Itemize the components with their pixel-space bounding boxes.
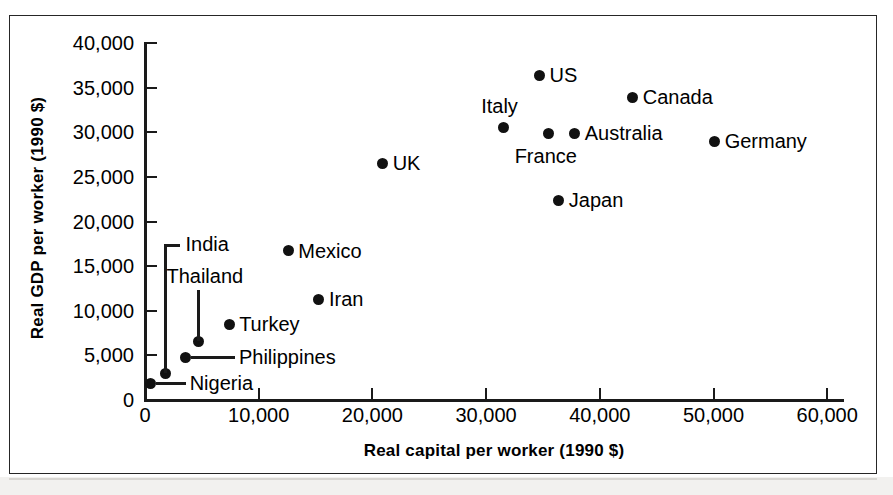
y-axis-tick bbox=[146, 310, 157, 312]
data-point-australia bbox=[569, 128, 580, 139]
data-label-iran: Iran bbox=[329, 289, 363, 309]
data-point-us bbox=[534, 70, 545, 81]
data-point-turkey bbox=[224, 319, 235, 330]
data-label-nigeria: Nigeria bbox=[190, 373, 253, 393]
data-label-turkey: Turkey bbox=[239, 314, 299, 334]
data-point-philippines bbox=[180, 352, 191, 363]
x-axis-tick-label: 60,000 bbox=[767, 405, 887, 425]
figure-root: 05,00010,00015,00020,00025,00030,00035,0… bbox=[0, 0, 893, 495]
data-point-iran bbox=[313, 294, 324, 305]
data-label-philippines: Philippines bbox=[239, 347, 336, 367]
scatter-plot-area: 05,00010,00015,00020,00025,00030,00035,0… bbox=[0, 0, 893, 495]
data-label-germany: Germany bbox=[725, 131, 807, 151]
y-axis-tick bbox=[146, 221, 157, 223]
data-point-mexico bbox=[283, 245, 294, 256]
x-axis-line bbox=[144, 399, 844, 402]
x-axis-title: Real capital per worker (1990 $) bbox=[144, 441, 844, 461]
x-axis-tick-label: 20,000 bbox=[312, 405, 432, 425]
data-label-us: US bbox=[550, 65, 578, 85]
data-point-italy bbox=[498, 122, 509, 133]
y-axis-tick bbox=[146, 42, 157, 44]
x-axis-tick bbox=[713, 388, 715, 399]
data-point-uk bbox=[377, 158, 388, 169]
data-label-italy: Italy bbox=[481, 96, 518, 116]
x-axis-tick-label: 0 bbox=[85, 405, 205, 425]
leader-line-nigeria bbox=[156, 382, 186, 385]
x-axis-tick-label: 30,000 bbox=[426, 405, 546, 425]
data-label-mexico: Mexico bbox=[298, 241, 361, 261]
x-axis-tick bbox=[485, 388, 487, 399]
y-axis-tick bbox=[146, 176, 157, 178]
data-point-japan bbox=[553, 195, 564, 206]
leader-line-philippines bbox=[191, 356, 235, 359]
data-label-thailand: Thailand bbox=[166, 266, 243, 286]
y-axis-tick bbox=[146, 354, 157, 356]
y-axis-title: Real GDP per worker (1990 $) bbox=[28, 38, 48, 398]
y-axis-tick bbox=[146, 131, 157, 133]
y-axis-tick bbox=[146, 265, 157, 267]
x-axis-tick bbox=[599, 388, 601, 399]
y-axis-tick bbox=[146, 87, 157, 89]
x-axis-tick bbox=[371, 388, 373, 399]
x-axis-tick-label: 50,000 bbox=[654, 405, 774, 425]
data-label-india: India bbox=[185, 234, 228, 254]
data-point-france bbox=[543, 128, 554, 139]
x-axis-tick bbox=[258, 388, 260, 399]
leader-line-india-horizontal bbox=[164, 244, 180, 247]
x-axis-tick-label: 40,000 bbox=[540, 405, 660, 425]
leader-line-thailand-vertical bbox=[197, 290, 200, 341]
data-label-france: France bbox=[515, 146, 577, 166]
data-label-japan: Japan bbox=[569, 190, 624, 210]
data-point-canada bbox=[627, 92, 638, 103]
data-point-germany bbox=[709, 136, 720, 147]
data-label-canada: Canada bbox=[643, 87, 713, 107]
x-axis-tick bbox=[826, 388, 828, 399]
data-label-uk: UK bbox=[393, 153, 421, 173]
data-point-nigeria bbox=[145, 378, 156, 389]
data-label-australia: Australia bbox=[585, 123, 663, 143]
x-axis-tick-label: 10,000 bbox=[199, 405, 319, 425]
